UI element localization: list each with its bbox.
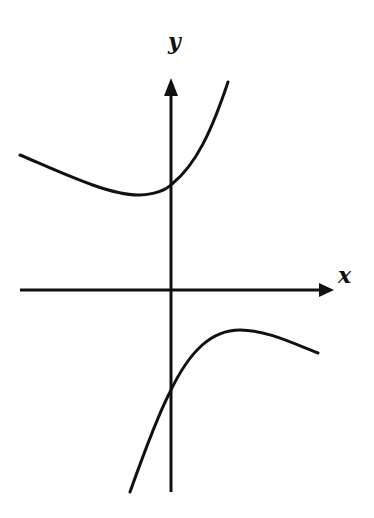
- x-axis-arrowhead-icon: [319, 283, 334, 297]
- x-axis-label: x: [338, 264, 351, 286]
- y-axis-label: y: [168, 30, 181, 52]
- lower-branch-curve: [130, 330, 318, 492]
- y-axis-arrowhead-icon: [164, 78, 178, 96]
- upper-branch-curve: [20, 82, 228, 195]
- graph-canvas: [0, 0, 374, 518]
